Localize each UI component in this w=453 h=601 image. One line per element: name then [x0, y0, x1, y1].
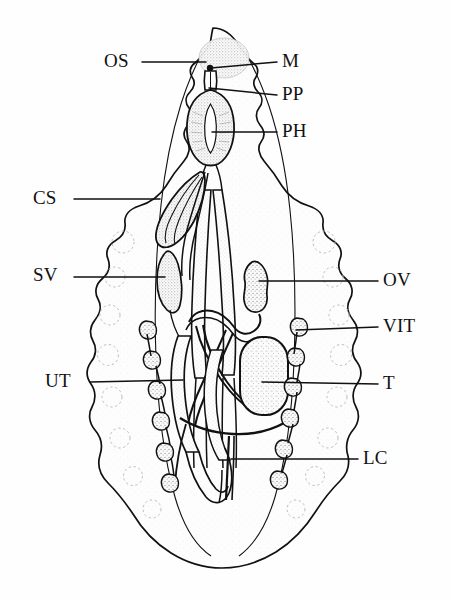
label-m: M [282, 51, 299, 70]
label-vit: VIT [383, 316, 415, 335]
label-sv: SV [33, 265, 58, 284]
anatomy-diagram [0, 0, 453, 601]
ovary [244, 261, 268, 312]
label-pp: PP [282, 84, 304, 103]
label-ut: UT [45, 371, 71, 390]
label-t: T [383, 373, 395, 392]
label-ph: PH [282, 121, 307, 140]
label-os: OS [104, 51, 129, 70]
figure-page: OS M PP PH CS SV OV VIT UT T LC [0, 0, 453, 601]
worm-body [87, 28, 361, 568]
label-lc: LC [363, 448, 388, 467]
testis [240, 337, 288, 415]
pharynx-lumen [205, 104, 217, 153]
label-cs: CS [33, 188, 57, 207]
label-ov: OV [383, 270, 411, 289]
